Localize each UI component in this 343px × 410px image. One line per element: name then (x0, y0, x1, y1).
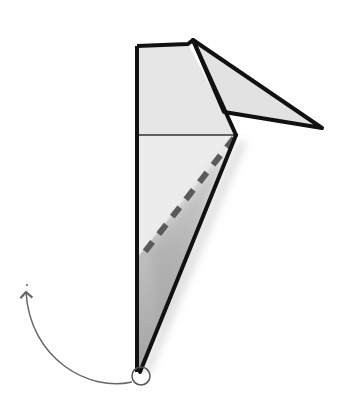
fold-arrow-icon (26, 292, 132, 384)
origami-diagram (0, 0, 343, 410)
diagram-svg (0, 0, 343, 410)
arrow-tip-dot (26, 284, 28, 286)
